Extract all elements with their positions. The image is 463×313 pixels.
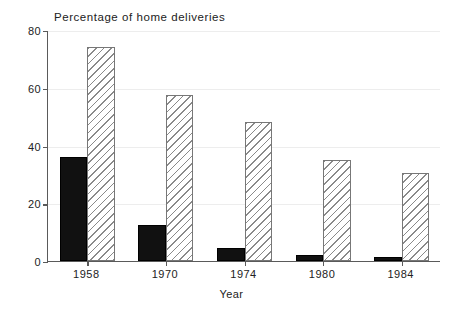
x-axis-tick-label: 1974	[230, 268, 256, 280]
plot-area	[47, 31, 440, 262]
x-axis-tick	[323, 261, 324, 266]
y-axis-tick	[43, 31, 48, 32]
y-axis-tick-label: 60	[28, 83, 41, 95]
x-axis-tick-label: 1984	[387, 268, 413, 280]
x-axis-tick	[166, 261, 167, 266]
x-axis-tick	[87, 261, 88, 266]
x-axis-labels: 19581970197419801984	[47, 268, 440, 284]
y-axis-tick	[43, 204, 48, 205]
y-axis-labels: 020406080	[0, 31, 41, 262]
chart-title: Percentage of home deliveries	[54, 11, 225, 23]
bar-solid-series-1980	[296, 255, 324, 261]
bar-hatched-series-1984	[402, 173, 430, 261]
bar-hatched-series-1980	[323, 160, 351, 261]
gridline	[48, 31, 440, 32]
bar-solid-series-1970	[138, 225, 166, 261]
y-axis-tick-label: 20	[28, 198, 41, 210]
y-axis-tick-label: 0	[34, 256, 41, 268]
x-axis-tick	[402, 261, 403, 266]
bar-hatched-series-1974	[245, 122, 273, 261]
x-axis-tick	[245, 261, 246, 266]
y-axis-tick	[43, 89, 48, 90]
bar-solid-series-1958	[60, 157, 88, 261]
x-axis-tick-label: 1970	[152, 268, 178, 280]
x-axis-title: Year	[0, 288, 463, 300]
bar-hatched-series-1958	[87, 47, 115, 261]
x-axis-tick-label: 1958	[73, 268, 99, 280]
bar-solid-series-1984	[374, 257, 402, 261]
x-axis-tick-label: 1980	[309, 268, 335, 280]
y-axis-tick-label: 80	[28, 25, 41, 37]
y-axis-tick-label: 40	[28, 141, 41, 153]
y-axis-tick	[43, 262, 48, 263]
chart-figure: Percentage of home deliveries 020406080 …	[0, 0, 463, 313]
y-axis-tick	[43, 147, 48, 148]
bar-solid-series-1974	[217, 248, 245, 261]
bar-hatched-series-1970	[166, 95, 194, 261]
